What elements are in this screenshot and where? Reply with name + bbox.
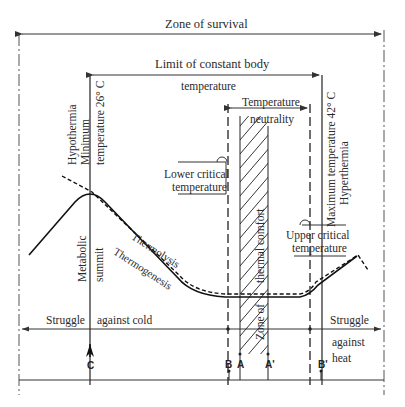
limit-constant-body-label: Limit of constant body <box>155 58 269 71</box>
zone-of-label: Zone of <box>254 304 267 340</box>
lower-critical-label-1: Lower critical <box>164 168 229 181</box>
temperature-neutrality-label-1: Temperature <box>242 96 300 109</box>
hypothermia-label: Hypothermia <box>66 104 79 165</box>
struggle-cold-label-2: against cold <box>97 314 152 327</box>
temperature-neutrality-label-2: neutrality <box>250 113 294 126</box>
struggle-cold-label-1: Struggle <box>46 314 85 327</box>
struggle-heat-label-2: against <box>332 336 365 349</box>
limit-constant-temperature-label: temperature <box>181 80 236 93</box>
metabolic-label: Metabolic <box>76 235 89 282</box>
upper-critical-label-2: temperature <box>292 242 347 255</box>
marker-c: C <box>87 360 94 371</box>
thermal-comfort-label: thermal comfort <box>254 209 267 283</box>
marker-b-prime: B' <box>318 359 328 370</box>
summit-label: summit <box>93 247 106 282</box>
struggle-heat-label-3: heat <box>332 352 351 365</box>
lower-critical-label-2: temperature <box>172 181 227 194</box>
marker-a: A <box>237 359 244 370</box>
max-temp-label: Maximum temperature 42° C <box>325 92 338 227</box>
min-temp-label: temperature 26° C <box>94 81 107 165</box>
hyperthermia-label: Hyperthermia <box>338 141 351 205</box>
marker-b: B <box>225 359 232 370</box>
struggle-heat-label-1: Struggle <box>330 314 369 327</box>
zone-of-survival-label: Zone of survival <box>165 18 248 31</box>
minimum-label: Minimum <box>79 119 92 165</box>
upper-critical-label-1: Upper critical <box>286 229 350 242</box>
marker-a-prime: A' <box>265 359 275 370</box>
